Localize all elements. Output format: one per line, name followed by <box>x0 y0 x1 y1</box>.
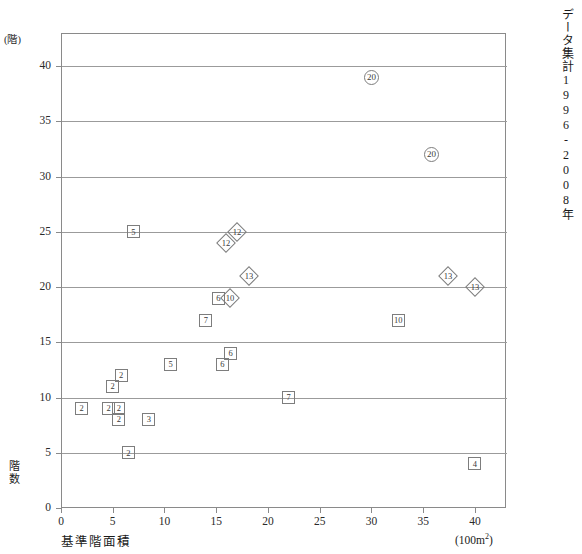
data-point-square-0: 2 <box>75 402 88 415</box>
y-tick-label-15: 15 <box>17 335 51 347</box>
x-tick-label-5: 5 <box>98 515 128 527</box>
x-tick-label-20: 20 <box>253 515 283 527</box>
data-point-square-20: 10 <box>392 314 405 327</box>
x-tick-label-30: 30 <box>356 515 386 527</box>
gridline-y-40 <box>62 66 507 67</box>
data-point-label: 6 <box>220 360 224 369</box>
data-point-label: 12 <box>221 239 230 248</box>
data-point-square-12: 7 <box>199 314 212 327</box>
data-point-label: 3 <box>147 415 151 424</box>
data-point-label: 7 <box>287 393 291 402</box>
x-axis-name: 基準階面積 <box>61 531 131 550</box>
y-tick-label-40: 40 <box>17 59 51 71</box>
data-point-label: 2 <box>111 382 115 391</box>
y-tick-mark-40 <box>56 66 61 67</box>
side-caption: データ集計1996-2008年 <box>548 8 572 268</box>
data-point-label: 6 <box>229 349 233 358</box>
data-point-square-6: 2 <box>122 446 135 459</box>
gridline-y-15 <box>62 342 507 343</box>
data-point-square-5: 2 <box>115 369 128 382</box>
x-tick-label-35: 35 <box>408 515 438 527</box>
data-point-label: 5 <box>169 360 173 369</box>
x-tick-mark-30 <box>371 508 372 513</box>
y-tick-mark-30 <box>56 177 61 178</box>
data-point-label: 12 <box>233 228 242 237</box>
y-tick-label-0: 0 <box>17 501 51 513</box>
y-tick-label-35: 35 <box>17 114 51 126</box>
data-point-label: 2 <box>117 404 121 413</box>
data-point-label: 2 <box>119 371 123 380</box>
x-tick-mark-35 <box>423 508 424 513</box>
x-tick-mark-0 <box>61 508 62 513</box>
data-point-label: 13 <box>245 272 254 281</box>
y-tick-label-30: 30 <box>17 170 51 182</box>
x-tick-mark-15 <box>216 508 217 513</box>
plot-area <box>61 33 506 508</box>
data-point-label: 10 <box>225 294 234 303</box>
x-tick-label-10: 10 <box>149 515 179 527</box>
gridline-y-20 <box>62 287 507 288</box>
data-point-label: 13 <box>444 272 453 281</box>
x-tick-mark-25 <box>320 508 321 513</box>
y-tick-mark-15 <box>56 342 61 343</box>
data-point-circle-21: 20 <box>424 147 439 162</box>
figure-canvas: (階) 階数 0510152025303540 0510152025303540… <box>0 0 582 554</box>
x-tick-mark-40 <box>475 508 476 513</box>
y-axis-name: 階数 <box>6 460 22 485</box>
data-point-square-8: 5 <box>127 225 140 238</box>
x-tick-mark-10 <box>164 508 165 513</box>
data-point-square-3: 2 <box>112 413 125 426</box>
data-point-square-18: 7 <box>282 391 295 404</box>
y-tick-label-25: 25 <box>17 225 51 237</box>
data-point-square-24: 4 <box>468 457 481 470</box>
x-axis-unit: (100m2) <box>455 532 493 546</box>
y-tick-label-5: 5 <box>17 446 51 458</box>
data-point-label: 20 <box>427 150 436 159</box>
x-tick-mark-5 <box>113 508 114 513</box>
x-tick-label-25: 25 <box>305 515 335 527</box>
y-tick-mark-35 <box>56 121 61 122</box>
data-point-label: 2 <box>126 449 130 458</box>
data-point-label: 10 <box>394 316 403 325</box>
y-tick-mark-25 <box>56 232 61 233</box>
data-point-label: 7 <box>204 316 208 325</box>
data-point-label: 2 <box>80 404 84 413</box>
data-point-label: 5 <box>131 228 135 237</box>
y-tick-label-20: 20 <box>17 280 51 292</box>
y-tick-mark-10 <box>56 398 61 399</box>
y-tick-mark-20 <box>56 287 61 288</box>
gridline-y-30 <box>62 177 507 178</box>
data-point-circle-19: 20 <box>364 70 379 85</box>
data-point-label: 2 <box>117 415 121 424</box>
data-point-label: 2 <box>106 404 110 413</box>
data-point-label: 20 <box>367 73 376 82</box>
x-tick-mark-20 <box>268 508 269 513</box>
gridline-y-35 <box>62 121 507 122</box>
data-point-square-9: 5 <box>164 358 177 371</box>
data-point-label: 13 <box>471 283 480 292</box>
y-tick-mark-5 <box>56 453 61 454</box>
x-tick-label-0: 0 <box>46 515 76 527</box>
x-tick-label-15: 15 <box>201 515 231 527</box>
x-tick-label-40: 40 <box>460 515 490 527</box>
y-tick-label-10: 10 <box>17 391 51 403</box>
data-point-label: 4 <box>473 460 477 469</box>
data-point-square-7: 3 <box>142 413 155 426</box>
data-point-square-11: 6 <box>224 347 237 360</box>
top-caption <box>38 0 458 10</box>
y-axis-unit: (階) <box>4 31 21 46</box>
